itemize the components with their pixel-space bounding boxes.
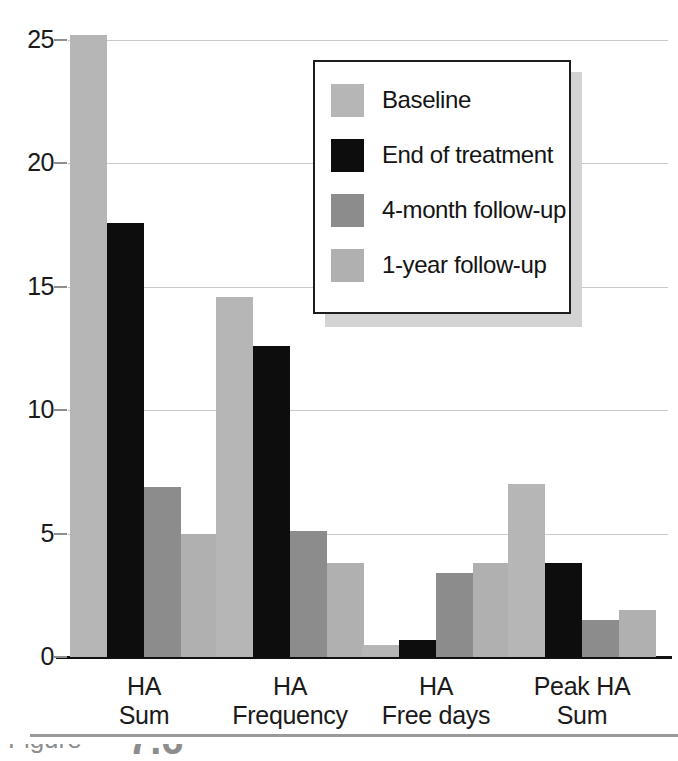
bar bbox=[399, 640, 436, 657]
x-axis-label-line: HA bbox=[127, 672, 161, 700]
legend-swatch bbox=[331, 194, 364, 227]
y-tick-mark bbox=[54, 286, 67, 288]
y-tick-mark bbox=[54, 533, 67, 535]
legend-label: Baseline bbox=[382, 87, 471, 113]
legend-label: 4-month follow-up bbox=[382, 197, 566, 223]
bar-group bbox=[70, 40, 218, 657]
legend-item[interactable]: End of treatment bbox=[331, 137, 553, 173]
x-axis-label-line: HA bbox=[273, 672, 307, 700]
figure-caption-cropped: Figure 7.6 bbox=[8, 744, 408, 761]
x-axis-label: Peak HASum bbox=[482, 672, 678, 730]
bar bbox=[619, 610, 656, 657]
legend-item[interactable]: 1-year follow-up bbox=[331, 247, 546, 283]
legend-swatch bbox=[331, 139, 364, 172]
bar bbox=[327, 563, 364, 657]
x-axis-label-line: HA bbox=[419, 672, 453, 700]
bar bbox=[181, 534, 218, 657]
bar bbox=[144, 487, 181, 657]
bar bbox=[508, 484, 545, 657]
caption-divider bbox=[30, 734, 678, 737]
y-tick-mark bbox=[54, 409, 67, 411]
bar bbox=[107, 223, 144, 657]
bar bbox=[582, 620, 619, 657]
y-tick-label: 15 bbox=[8, 274, 54, 299]
legend-item[interactable]: 4-month follow-up bbox=[331, 192, 566, 228]
legend-swatch bbox=[331, 249, 364, 282]
bar bbox=[216, 297, 253, 657]
x-axis-label-line: Peak HA bbox=[534, 672, 631, 700]
bar bbox=[290, 531, 327, 657]
legend-swatch bbox=[331, 84, 364, 117]
y-tick-label: 20 bbox=[8, 150, 54, 175]
legend-item[interactable]: Baseline bbox=[331, 82, 471, 118]
bar bbox=[362, 645, 399, 657]
legend-label: 1-year follow-up bbox=[382, 252, 546, 278]
y-tick-mark bbox=[54, 39, 67, 41]
caption-number: 7.6 bbox=[128, 744, 184, 761]
legend-label: End of treatment bbox=[382, 142, 553, 168]
bar bbox=[70, 35, 107, 657]
y-tick-label: 0 bbox=[8, 644, 54, 669]
legend: BaselineEnd of treatment4-month follow-u… bbox=[313, 60, 571, 314]
y-tick-label: 25 bbox=[8, 27, 54, 52]
y-tick-mark bbox=[54, 162, 67, 164]
y-tick-label: 5 bbox=[8, 521, 54, 546]
y-tick-mark bbox=[54, 656, 67, 658]
bar bbox=[545, 563, 582, 657]
caption-prefix: Figure bbox=[8, 744, 82, 755]
x-axis-label-line: Sum bbox=[482, 701, 678, 730]
bar bbox=[253, 346, 290, 657]
bar bbox=[473, 563, 510, 657]
y-tick-label: 10 bbox=[8, 397, 54, 422]
bar bbox=[436, 573, 473, 657]
figure-container: 0510152025 HASumHAFrequencyHAFree daysPe… bbox=[0, 0, 678, 761]
